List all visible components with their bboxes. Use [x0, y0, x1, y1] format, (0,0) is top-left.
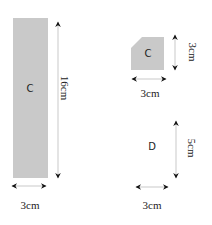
- small-cut-square-group: C 3cm 3cm: [131, 35, 199, 99]
- tall-rectangle-group: C 16cm 3cm: [12, 18, 71, 211]
- tall-rectangle-label: C: [27, 83, 34, 94]
- tall-rectangle: [13, 18, 48, 178]
- shape-d-label: D: [148, 141, 156, 152]
- width-label-3cm-c: 3cm: [143, 199, 162, 211]
- height-label-3cm: 3cm: [187, 43, 199, 62]
- height-label-16cm: 16cm: [59, 76, 71, 101]
- height-label-5cm: 5cm: [186, 139, 198, 158]
- width-label-3cm-a: 3cm: [21, 199, 40, 211]
- shape-d-group: D 5cm 3cm: [136, 121, 198, 211]
- width-label-3cm-b: 3cm: [141, 87, 160, 99]
- diagram-canvas: C 16cm 3cm C 3cm 3cm D 5cm 3cm: [0, 0, 212, 225]
- small-cut-square-label: C: [145, 48, 152, 59]
